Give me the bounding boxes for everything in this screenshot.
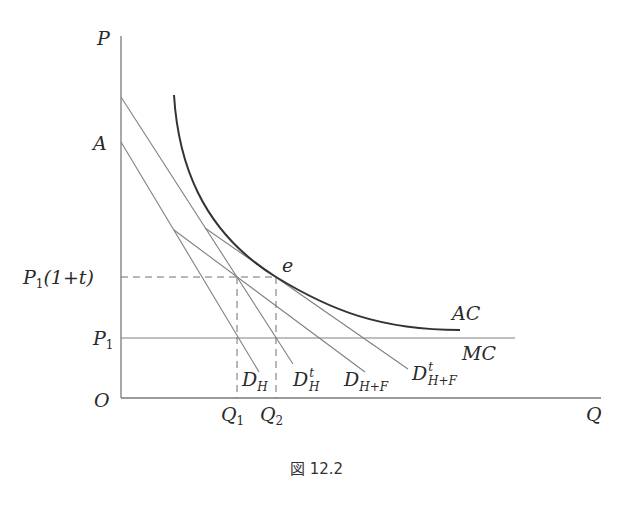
p1-1t-main: P: [22, 266, 37, 288]
y-tick-p1-1t: P1(1+t): [22, 266, 94, 291]
demand-dhf-t: [205, 228, 408, 369]
demand-dhf: [174, 230, 365, 372]
q1-sub: 1: [237, 414, 245, 428]
dhft-sup: t: [428, 360, 433, 374]
q2-sub: 2: [276, 414, 284, 428]
dhf-sub: H+F: [358, 380, 389, 394]
p1-1t-sub: 1: [36, 277, 44, 291]
y-tick-a: A: [91, 132, 107, 154]
dh-t-label: DtH: [292, 366, 320, 394]
dh-label: DH: [241, 368, 268, 394]
p1-main: P: [92, 327, 107, 349]
dhf-label: DH+F: [343, 368, 389, 394]
dh-sub: H: [256, 380, 268, 394]
dhft-sub: H+F: [427, 374, 458, 388]
y-axis-label: P: [96, 27, 111, 49]
mc-label: MC: [461, 342, 496, 364]
p1-1t-rest: (1+t): [43, 266, 93, 288]
dhf-t-label: DtH+F: [411, 360, 458, 388]
demand-dh-t: [121, 97, 293, 364]
ac-curve: [174, 95, 460, 330]
dhf-main: D: [343, 368, 359, 390]
ac-label: AC: [450, 302, 481, 324]
dht-sup: t: [309, 366, 314, 380]
dht-sub: H: [308, 380, 320, 394]
x-axis-label: Q: [586, 403, 602, 425]
point-e-label: e: [282, 254, 293, 276]
diagram-canvas: P Q O A P1(1+t) P1 Q1 Q2 e AC MC DH DtH …: [0, 0, 631, 505]
y-tick-p1: P1: [92, 327, 113, 352]
q2-main: Q: [260, 403, 276, 425]
p1-sub: 1: [106, 338, 114, 352]
dhft-main: D: [411, 362, 427, 384]
dht-main: D: [292, 368, 308, 390]
q1-main: Q: [221, 403, 237, 425]
x-tick-q1: Q1: [221, 403, 244, 428]
dh-main: D: [241, 368, 257, 390]
figure-caption: 図 12.2: [290, 460, 343, 478]
origin-label: O: [94, 389, 110, 411]
x-tick-q2: Q2: [260, 403, 283, 428]
